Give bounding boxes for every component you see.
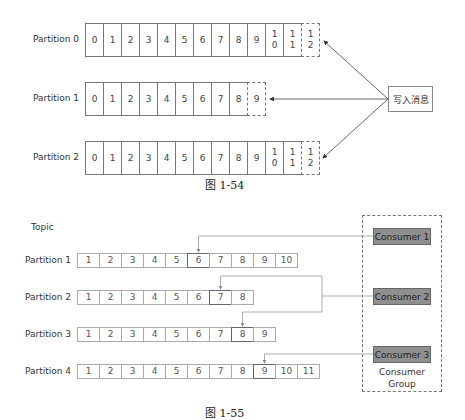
connector-layer — [0, 0, 465, 418]
diagram-canvas: Partition 00123456789101112Partition 101… — [0, 0, 465, 418]
